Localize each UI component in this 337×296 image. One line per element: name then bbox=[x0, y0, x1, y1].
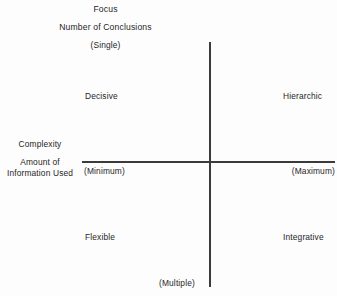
quadrant-label-bottom-right: Integrative bbox=[283, 232, 324, 243]
decision-style-matrix-figure: Focus Number of Conclusions (Single) Com… bbox=[0, 0, 337, 296]
horizontal-axis-title: Complexity bbox=[0, 139, 80, 150]
horizontal-axis-line bbox=[82, 161, 335, 163]
horizontal-axis-left-endpoint: (Minimum) bbox=[84, 166, 125, 177]
quadrant-label-top-left: Decisive bbox=[85, 91, 118, 102]
vertical-axis-bottom-endpoint: (Multiple) bbox=[159, 278, 195, 289]
vertical-axis-subtitle: Number of Conclusions bbox=[0, 22, 211, 33]
horizontal-axis-label-group: Complexity Amount of Information Used bbox=[0, 139, 80, 179]
quadrant-label-top-right: Hierarchic bbox=[283, 91, 322, 102]
horizontal-axis-right-endpoint: (Maximum) bbox=[292, 166, 335, 177]
horizontal-axis-subtitle-line1: Amount of bbox=[0, 157, 80, 168]
horizontal-axis-subtitle-line2: Information Used bbox=[0, 168, 80, 179]
quadrant-label-bottom-left: Flexible bbox=[85, 232, 115, 243]
vertical-axis-top-endpoint: (Single) bbox=[0, 40, 211, 51]
vertical-axis-line bbox=[209, 42, 211, 287]
vertical-axis-label-group: Focus Number of Conclusions (Single) bbox=[0, 4, 211, 58]
vertical-axis-title: Focus bbox=[0, 4, 211, 15]
